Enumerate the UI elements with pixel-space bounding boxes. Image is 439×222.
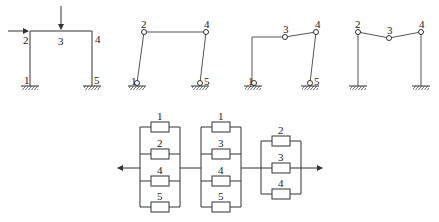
element-label: 4 [218,164,224,176]
node-label-5: 5 [94,74,100,86]
element-box [212,122,230,132]
hinge-icon [142,30,147,35]
diagram-canvas: 2 3 4 1 5 2 4 1 5 3 4 [0,0,439,222]
parallel-group-2: 1 3 4 5 [201,110,241,212]
element-label: 2 [278,124,284,136]
hinge-icon [314,30,319,35]
node-label-5: 5 [314,75,320,87]
element-box [212,176,230,186]
hinge-icon [198,81,203,86]
element-box [212,149,230,159]
fixed-support-icon [22,86,38,90]
parallel-group-1: 1 2 4 5 [140,110,180,212]
node-label-4: 4 [95,33,101,45]
element-label: 1 [218,110,224,122]
hinge-icon [204,30,209,35]
element-label: 3 [218,137,224,149]
frame4-beam-right [389,32,421,38]
hinge-icon [419,30,424,35]
element-box [272,189,290,199]
frame-4: 2 3 4 [349,18,430,90]
node-label-5: 5 [204,75,210,87]
hinge-icon [308,81,313,86]
element-label: 2 [157,137,163,149]
element-box [151,122,169,132]
element-box [151,202,169,212]
node-label-4: 4 [315,18,321,30]
element-label: 4 [278,177,284,189]
frame-1: 2 3 4 1 5 [8,6,101,90]
node-label-1: 1 [248,75,254,87]
element-box [151,176,169,186]
hinge-icon [387,36,392,41]
element-box [272,136,290,146]
frame4-beam-left [358,32,389,38]
node-label-3: 3 [387,24,393,36]
element-box [151,149,169,159]
node-label-1: 1 [24,74,30,86]
reliability-network: 1 2 4 5 1 3 4 5 [118,110,322,212]
node-label-2: 2 [23,34,29,46]
node-label-1: 1 [131,75,137,87]
frame-3: 3 4 1 5 [244,18,321,90]
element-box [272,163,290,173]
node-label-3: 3 [58,35,64,47]
fixed-support-icon [350,86,366,90]
element-label: 3 [278,151,284,163]
hinge-icon [356,30,361,35]
node-label-4: 4 [419,18,425,30]
node-label-2: 2 [141,18,147,30]
fixed-support-icon [84,86,100,90]
node-label-4: 4 [204,18,210,30]
frame3-beam-right [285,32,316,37]
element-label: 5 [218,190,224,202]
hinge-icon [283,35,288,40]
frame2-left-column [137,32,144,83]
node-label-3: 3 [283,23,289,35]
element-box [212,202,230,212]
element-label: 4 [157,164,163,176]
parallel-group-3: 2 3 4 [261,124,301,199]
frame-2: 2 4 1 5 [128,18,210,90]
node-label-2: 2 [355,18,361,30]
fixed-support-icon [413,86,429,90]
element-label: 1 [157,110,163,122]
element-label: 5 [157,190,163,202]
